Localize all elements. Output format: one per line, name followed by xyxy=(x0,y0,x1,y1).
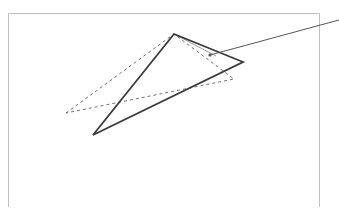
triangle-diagram xyxy=(0,0,339,207)
dashed-triangle xyxy=(66,34,234,113)
leader-anchor-dot xyxy=(208,53,211,56)
frame-border xyxy=(9,14,320,208)
solid-triangle xyxy=(93,34,243,135)
